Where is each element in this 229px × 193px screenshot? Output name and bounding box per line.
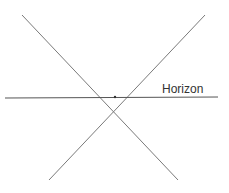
horizon-label: Horizon <box>162 82 203 96</box>
vanishing-point <box>114 96 116 98</box>
horizon-line <box>5 97 218 98</box>
diagram-canvas: Horizon <box>0 0 229 193</box>
horizon-diagram: Horizon <box>0 0 229 193</box>
